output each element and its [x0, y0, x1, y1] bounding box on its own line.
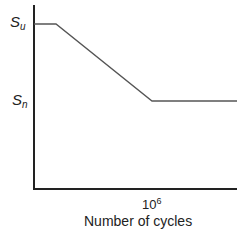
su-label: Su [10, 13, 26, 32]
xtick-exponent: 6 [156, 196, 161, 206]
xtick-base: 10 [142, 197, 156, 212]
sn-symbol: S [12, 91, 22, 108]
sn-label: Sn [12, 91, 28, 110]
su-symbol: S [10, 13, 20, 30]
x-axis-label: Number of cycles [84, 213, 192, 229]
sn-chart [0, 0, 246, 235]
x-tick-1e6: 106 [142, 196, 161, 212]
sn-subscript: n [22, 99, 28, 110]
sn-curve [34, 24, 237, 101]
su-subscript: u [20, 21, 26, 32]
